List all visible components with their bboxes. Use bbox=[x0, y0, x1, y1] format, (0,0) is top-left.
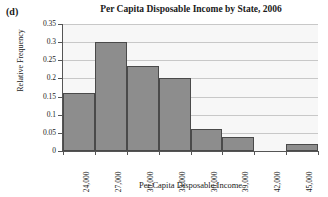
y-axis-tick-label: 0.05 bbox=[16, 128, 56, 137]
y-axis-tick bbox=[58, 60, 63, 61]
x-axis-tick bbox=[318, 151, 319, 155]
y-axis-label-wrap: 0.05 bbox=[12, 128, 56, 138]
x-axis-tick bbox=[191, 151, 192, 155]
x-axis-tick bbox=[95, 151, 96, 155]
y-axis-tick bbox=[58, 78, 63, 79]
x-axis-label-wrap: 48,000 bbox=[318, 157, 328, 187]
x-axis-tick bbox=[254, 151, 255, 155]
y-axis-tick bbox=[58, 42, 63, 43]
gridline bbox=[63, 24, 318, 25]
bar bbox=[159, 78, 191, 151]
y-axis-tick bbox=[58, 115, 63, 116]
y-axis-tick-label: 0 bbox=[16, 146, 56, 155]
bar bbox=[286, 144, 318, 151]
y-axis-label-wrap: 0 bbox=[12, 146, 56, 156]
x-axis-tick bbox=[286, 151, 287, 155]
x-axis-tick bbox=[127, 151, 128, 155]
y-axis-tick bbox=[58, 24, 63, 25]
x-axis-tick bbox=[63, 151, 64, 155]
bar bbox=[191, 129, 223, 151]
y-axis-label-wrap: 0.1 bbox=[12, 110, 56, 120]
y-axis-tick bbox=[58, 133, 63, 134]
bar bbox=[222, 137, 254, 152]
y-axis-tick-label: 0.1 bbox=[16, 110, 56, 119]
x-axis-tick bbox=[222, 151, 223, 155]
plot-area bbox=[63, 24, 318, 151]
bar bbox=[127, 66, 159, 151]
y-axis-title: Relative Frequency bbox=[16, 13, 25, 109]
chart-figure: (d) Per Capita Disposable Income by Stat… bbox=[0, 0, 328, 197]
y-axis-tick bbox=[58, 97, 63, 98]
x-axis-tick bbox=[159, 151, 160, 155]
bar bbox=[95, 42, 127, 151]
x-axis-title: Per Capita Disposable Income bbox=[63, 180, 318, 190]
bar bbox=[63, 93, 95, 151]
chart-title: Per Capita Disposable Income by State, 2… bbox=[60, 4, 322, 14]
